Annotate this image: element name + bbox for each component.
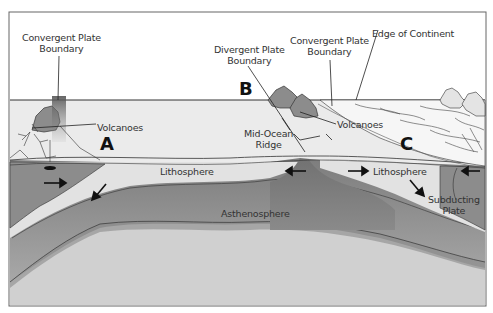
- label-asthenosphere: Asthenosphere: [221, 208, 290, 219]
- label-mid-ocean-ridge: Mid-Ocean Ridge: [244, 128, 293, 150]
- marker-c: C: [400, 135, 413, 153]
- label-subducting-plate: Subducting Plate: [428, 194, 480, 216]
- label-convergent-left: Convergent Plate Boundary: [22, 32, 101, 54]
- label-volcanoes-right: Volcanoes: [337, 119, 383, 130]
- label-convergent-right: Convergent Plate Boundary: [290, 35, 369, 57]
- ash-plume: [52, 96, 66, 142]
- magma-chamber: [44, 166, 56, 170]
- marker-b: B: [239, 80, 253, 98]
- label-edge-of-continent: Edge of Continent: [372, 28, 454, 39]
- label-volcanoes-left: Volcanoes: [97, 122, 143, 133]
- label-lithosphere-right: Lithosphere: [373, 166, 427, 177]
- label-divergent: Divergent Plate Boundary: [214, 44, 285, 66]
- label-lithosphere-left: Lithosphere: [160, 166, 214, 177]
- marker-a: A: [100, 135, 114, 153]
